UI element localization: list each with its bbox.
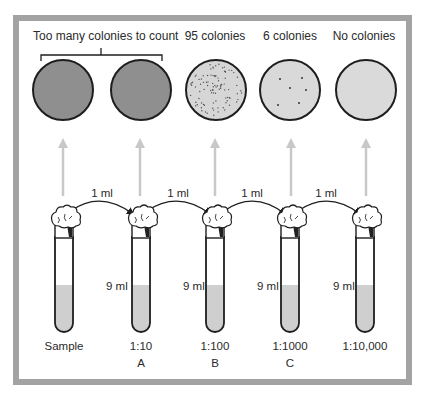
test-tube — [52, 205, 81, 332]
tube-letter-a: A — [137, 357, 145, 369]
test-tube — [203, 205, 232, 332]
tube-liquid — [281, 285, 299, 332]
tube-volume-label: 9 ml — [257, 280, 279, 292]
transfer-label: 1 ml — [167, 187, 189, 199]
tube-letter-c: C — [286, 357, 294, 369]
plate-sample — [33, 60, 93, 120]
tube-liquid — [356, 285, 374, 332]
tube-volume-label: 9 ml — [183, 280, 205, 292]
cotton-plug-icon — [52, 205, 81, 228]
dilution-label-a: 1:10 — [130, 340, 152, 352]
plate-b-label: 95 colonies — [185, 29, 246, 43]
transfer-label: 1 ml — [91, 187, 113, 199]
plate-b — [186, 60, 246, 120]
tube-volume-label: 9 ml — [333, 280, 355, 292]
tube-liquid — [55, 285, 73, 332]
plate-a — [111, 60, 171, 120]
cotton-plug-icon — [129, 205, 158, 228]
cotton-plug-icon — [203, 205, 232, 228]
cotton-plug-icon — [353, 205, 382, 228]
test-tube — [278, 205, 307, 332]
dilution-label-d: 1:10,000 — [343, 340, 388, 352]
tube-letter-b: B — [211, 357, 219, 369]
plate-c — [260, 60, 320, 120]
tube-liquid — [132, 285, 150, 332]
tube-liquid — [206, 285, 224, 332]
plate-d-label: No colonies — [333, 29, 396, 43]
transfer-label: 1 ml — [315, 187, 337, 199]
dilution-label-sample: Sample — [45, 340, 84, 352]
dilution-label-b: 1:100 — [201, 340, 230, 352]
plate-d — [336, 60, 396, 120]
dilution-label-c: 1:1000 — [272, 340, 307, 352]
cotton-plug-icon — [278, 205, 307, 228]
transfer-label: 1 ml — [241, 187, 263, 199]
test-tube — [353, 205, 382, 332]
test-tube — [129, 205, 158, 332]
bracket-label: Too many colonies to count — [33, 29, 178, 43]
tube-volume-label: 9 ml — [106, 280, 128, 292]
plate-c-label: 6 colonies — [263, 29, 317, 43]
bracket — [41, 48, 162, 61]
